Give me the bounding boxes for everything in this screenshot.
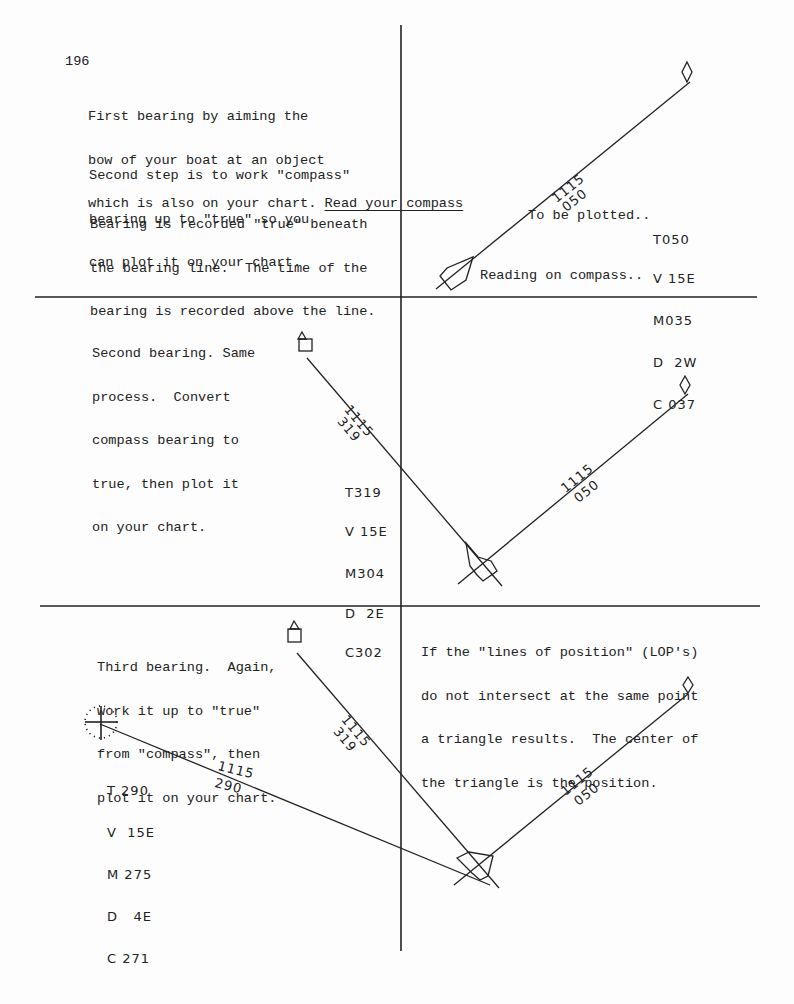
calc-row: M 275 bbox=[107, 868, 155, 882]
calc-value: 290 bbox=[121, 783, 149, 798]
calc-row: D 2W bbox=[653, 356, 697, 369]
diamond-marker-p1 bbox=[682, 62, 692, 82]
text-line: First bearing by aiming the bbox=[88, 110, 463, 125]
calc-row: D 2E bbox=[345, 607, 388, 620]
calc-value: 2W bbox=[664, 355, 697, 370]
calc-letter: T bbox=[345, 485, 354, 500]
reading-on-compass-label: Reading on compass.. bbox=[480, 269, 643, 284]
text-line: true, then plot it bbox=[92, 478, 255, 493]
calc-value: 15E bbox=[122, 825, 155, 840]
panel2-paragraph: Second bearing. Same process. Convert co… bbox=[92, 318, 255, 565]
text-line: work it up to "true" bbox=[97, 705, 276, 720]
text-line: do not intersect at the same point bbox=[421, 690, 698, 705]
calc-value: 271 bbox=[122, 951, 150, 966]
calc-letter: M bbox=[107, 867, 119, 882]
calc-value: 4E bbox=[123, 909, 152, 924]
calc-letter: T bbox=[653, 232, 662, 247]
tower-base-p3 bbox=[288, 629, 301, 642]
calc-block-p2: T319 V 15E M304 D 2E C302 bbox=[345, 460, 388, 685]
calc-letter: M bbox=[345, 566, 357, 581]
calc-value: 035 bbox=[665, 313, 693, 328]
calc-row: V 15E bbox=[345, 525, 388, 538]
calc-letter: V bbox=[345, 524, 355, 539]
calc-value: 304 bbox=[357, 566, 385, 581]
calc-letter: C bbox=[653, 397, 663, 412]
calc-value: 050 bbox=[662, 232, 690, 247]
calc-value: 302 bbox=[355, 645, 383, 660]
calc-row: V 15E bbox=[653, 272, 697, 285]
text-line: the bearing line. The time of the bbox=[90, 262, 376, 277]
page-number: 196 bbox=[65, 55, 89, 70]
text-line: Bearing is recorded "true" beneath bbox=[90, 218, 376, 233]
calc-row: M035 bbox=[653, 314, 697, 327]
text-line: Second step is to work "compass" bbox=[89, 169, 350, 184]
calc-letter: D bbox=[107, 909, 118, 924]
calc-value: 2E bbox=[356, 606, 385, 621]
boat-symbol-p4 bbox=[457, 852, 493, 880]
calc-value: 15E bbox=[663, 271, 696, 286]
tower-top-p3 bbox=[290, 621, 299, 629]
text-line: process. Convert bbox=[92, 391, 255, 406]
calc-row: C 037 bbox=[653, 398, 697, 411]
text-line: If the "lines of position" (LOP's) bbox=[421, 646, 698, 661]
calc-row: T050 bbox=[653, 233, 697, 246]
text-line: Second bearing. Same bbox=[92, 347, 255, 362]
calc-value: 15E bbox=[355, 524, 388, 539]
calc-letter: D bbox=[653, 355, 664, 370]
calc-letter: C bbox=[107, 951, 117, 966]
calc-row: M304 bbox=[345, 567, 388, 580]
calc-letter: V bbox=[653, 271, 663, 286]
boat-symbol-p1 bbox=[440, 257, 473, 290]
calc-value: 037 bbox=[663, 397, 696, 412]
calc-letter: C bbox=[345, 645, 355, 660]
calc-row: T319 bbox=[345, 486, 388, 499]
calc-letter: D bbox=[345, 606, 356, 621]
calc-letter: V bbox=[107, 825, 117, 840]
calc-row: C 271 bbox=[107, 952, 155, 966]
to-be-plotted-label: To be plotted.. bbox=[528, 209, 650, 224]
calc-letter: M bbox=[653, 313, 665, 328]
calc-row: C302 bbox=[345, 646, 388, 659]
calc-block-p3: T 290 V 15E M 275 D 4E C 271 bbox=[107, 756, 155, 994]
text-line: a triangle results. The center of bbox=[421, 733, 698, 748]
page: 196 First bearing by aiming the bow of y… bbox=[0, 0, 794, 1004]
calc-letter: T bbox=[107, 783, 116, 798]
text-line: on your chart. bbox=[92, 521, 255, 536]
calc-row: T 290 bbox=[107, 784, 155, 798]
calc-value: 319 bbox=[354, 485, 382, 500]
calc-block-p1: T050 V 15E M035 D 2W C 037 bbox=[653, 207, 697, 437]
text-line: compass bearing to bbox=[92, 434, 255, 449]
calc-value: 275 bbox=[124, 867, 152, 882]
calc-row: V 15E bbox=[107, 826, 155, 840]
calc-row: D 4E bbox=[107, 910, 155, 924]
text-line: Third bearing. Again, bbox=[97, 661, 276, 676]
